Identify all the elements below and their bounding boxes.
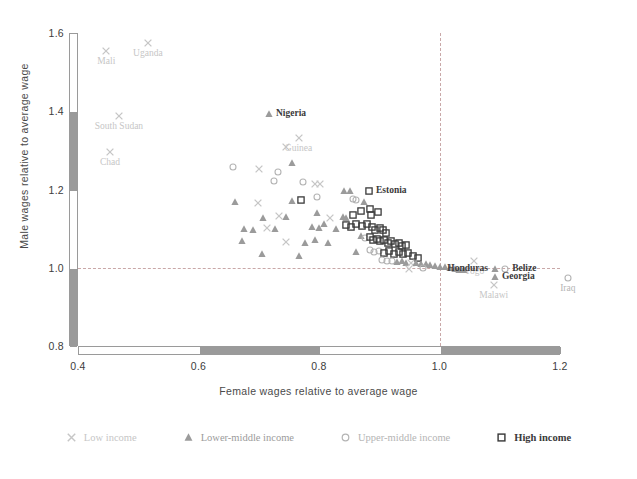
circle-marker-icon: [418, 263, 428, 273]
cross-marker-icon: [294, 133, 304, 143]
triangle-marker-icon: [310, 235, 320, 245]
point-label-chad: Chad: [100, 157, 120, 167]
point-label-estonia: Estonia: [376, 185, 407, 195]
circle-marker-icon: [340, 432, 351, 443]
axis-bar-segment: [70, 112, 77, 190]
cross-marker-icon: [114, 111, 124, 121]
axis-bar-segment: [200, 347, 321, 354]
triangle-marker-icon: [257, 249, 267, 259]
cross-marker-icon: [105, 147, 115, 157]
x-tick-label: 1.0: [432, 360, 448, 372]
cross-marker-icon: [315, 179, 325, 189]
point-label-malawi: Malawi: [479, 290, 508, 300]
point-label-nigeria: Nigeria: [276, 108, 306, 118]
triangle-marker-icon: [183, 432, 194, 443]
circle-marker-icon: [312, 192, 322, 202]
y-tick-label: 1.0: [30, 262, 64, 274]
circle-marker-icon: [269, 176, 279, 186]
y-tick-label: 1.2: [30, 184, 64, 196]
point-label-mali: Mali: [97, 56, 115, 66]
triangle-marker-icon: [270, 224, 280, 234]
point-label-georgia: Georgia: [502, 271, 535, 281]
circle-marker-icon: [563, 273, 573, 283]
circle-marker-icon: [228, 162, 238, 172]
y-tick-label: 1.6: [30, 27, 64, 39]
square-marker-icon: [496, 432, 507, 443]
cross-marker-icon: [281, 237, 291, 247]
plot-area: MaliUgandaSouth SudanChadNigeriaGuineaEs…: [78, 33, 560, 346]
triangle-marker-icon: [281, 212, 291, 222]
y-axis-title: Male wages relative to average wage: [18, 56, 30, 256]
chart-page: MaliUgandaSouth SudanChadNigeriaGuineaEs…: [0, 0, 637, 479]
x-tick-label: 0.8: [311, 360, 327, 372]
triangle-marker-icon: [319, 219, 329, 229]
triangle-marker-icon: [312, 208, 322, 218]
y-axis-bar: [69, 33, 78, 346]
triangle-marker-icon: [264, 109, 274, 119]
legend-item-low-income[interactable]: Low income: [66, 432, 137, 443]
square-marker-icon: [364, 186, 374, 196]
legend-item-high-income[interactable]: High income: [496, 432, 571, 443]
legend-label: Lower-middle income: [201, 432, 294, 443]
x-axis-title: Female wages relative to average wage: [0, 385, 637, 397]
triangle-marker-icon: [248, 225, 258, 235]
x-tick-label: 0.4: [70, 360, 86, 372]
x-axis-bar: [78, 346, 560, 355]
legend-label: Upper-middle income: [358, 432, 450, 443]
triangle-marker-icon: [323, 238, 333, 248]
triangle-marker-icon: [300, 238, 310, 248]
triangle-marker-icon: [230, 197, 240, 207]
point-label-honduras: Honduras: [447, 263, 488, 273]
cross-marker-icon: [253, 198, 263, 208]
legend-item-upper-middle-income[interactable]: Upper-middle income: [340, 432, 450, 443]
cross-marker-icon: [66, 432, 77, 443]
y-tick-label: 0.8: [30, 340, 64, 352]
circle-marker-icon: [298, 177, 308, 187]
square-marker-icon: [296, 195, 306, 205]
triangle-marker-icon: [331, 224, 341, 234]
y-tick-label: 1.4: [30, 105, 64, 117]
cross-marker-icon: [254, 164, 264, 174]
triangle-marker-icon: [294, 251, 304, 261]
cross-marker-icon: [489, 280, 499, 290]
triangle-marker-icon: [351, 247, 361, 257]
axis-bar-segment: [70, 269, 77, 347]
x-tick-label: 1.2: [552, 360, 568, 372]
triangle-marker-icon: [258, 213, 268, 223]
chart-legend: Low incomeLower-middle incomeUpper-middl…: [0, 432, 637, 443]
reference-line-vertical: [440, 33, 441, 346]
point-label-iraq: Iraq: [560, 283, 575, 293]
square-marker-icon: [373, 207, 383, 217]
axis-bar-segment: [441, 347, 562, 354]
cross-marker-icon: [143, 38, 153, 48]
legend-item-lower-middle-income[interactable]: Lower-middle income: [183, 432, 294, 443]
point-label-uganda: Uganda: [133, 48, 163, 58]
cross-marker-icon: [101, 46, 111, 56]
cross-marker-icon: [404, 264, 414, 274]
point-label-south-sudan: South Sudan: [95, 121, 143, 131]
triangle-marker-icon: [287, 158, 297, 168]
triangle-marker-icon: [237, 236, 247, 246]
x-tick-label: 0.6: [191, 360, 207, 372]
point-label-guinea: Guinea: [285, 143, 312, 153]
legend-label: High income: [514, 432, 571, 443]
legend-label: Low income: [84, 432, 137, 443]
